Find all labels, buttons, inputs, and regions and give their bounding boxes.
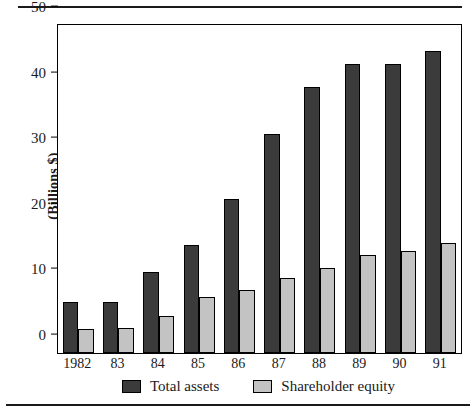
bar-total-assets (385, 64, 401, 353)
bar-shareholder-equity (360, 255, 376, 353)
bar-shareholder-equity (401, 251, 417, 353)
bar-group (385, 25, 416, 353)
bar-shareholder-equity (239, 290, 255, 353)
legend-swatch-icon (253, 380, 272, 393)
bar-shareholder-equity (78, 329, 94, 353)
bar-shareholder-equity (199, 297, 215, 353)
y-tick-mark (51, 202, 58, 203)
y-tick-10: 10 (31, 259, 58, 278)
y-tick-mark (51, 268, 58, 269)
bar-group (224, 25, 255, 353)
bar-shareholder-equity (441, 243, 457, 353)
bar-group (63, 25, 94, 353)
y-tick-label: 20 (31, 195, 51, 212)
bar-total-assets (63, 302, 79, 353)
bar-shareholder-equity (320, 268, 336, 353)
x-tick-label-90: 90 (393, 356, 407, 372)
x-tick-label-87: 87 (272, 356, 286, 372)
y-tick-mark (51, 137, 58, 138)
bar-total-assets (224, 199, 240, 353)
y-tick-mark (51, 334, 58, 335)
x-tick-label-83: 83 (110, 356, 124, 372)
bar-group (304, 25, 335, 353)
x-tick-label-91: 91 (433, 356, 447, 372)
x-tick-label-89: 89 (352, 356, 366, 372)
x-tick-label-1982: 1982 (63, 356, 91, 372)
bar-total-assets (184, 245, 200, 353)
x-tick-label-86: 86 (231, 356, 245, 372)
bottom-rule (6, 404, 470, 406)
bars-layer (58, 25, 461, 353)
y-tick-30: 30 (31, 128, 58, 147)
bar-shareholder-equity (118, 328, 134, 353)
legend-item-total-assets: Total assets (122, 378, 219, 395)
y-tick-label: 40 (31, 64, 51, 81)
legend-label: Total assets (150, 378, 219, 395)
y-tick-label: 50 (31, 0, 51, 16)
bar-group (103, 25, 134, 353)
bar-group (143, 25, 174, 353)
chart-legend: Total assetsShareholder equity (57, 376, 460, 396)
y-tick-20: 20 (31, 194, 58, 213)
bar-group (184, 25, 215, 353)
bar-total-assets (425, 51, 441, 353)
x-tick-label-88: 88 (312, 356, 326, 372)
top-rule (18, 6, 462, 8)
plot-area: 01020304050 (57, 24, 462, 354)
bar-shareholder-equity (159, 316, 175, 353)
bar-total-assets (103, 302, 119, 353)
y-tick-40: 40 (31, 62, 58, 81)
bar-group (264, 25, 295, 353)
bar-total-assets (345, 64, 361, 353)
legend-label: Shareholder equity (281, 378, 395, 395)
bar-total-assets (264, 134, 280, 353)
bar-group (345, 25, 376, 353)
bar-total-assets (143, 272, 159, 353)
y-tick-50: 50 (31, 0, 58, 16)
bar-shareholder-equity (280, 278, 296, 353)
x-tick-label-84: 84 (151, 356, 165, 372)
y-tick-0: 0 (39, 325, 59, 344)
chart-figure: (Billions $) 01020304050 198283848586878… (0, 0, 474, 412)
y-tick-mark (51, 6, 58, 7)
x-tick-label-85: 85 (191, 356, 205, 372)
y-tick-label: 10 (31, 261, 51, 278)
bar-total-assets (304, 87, 320, 353)
x-axis-ticks: 1982838485868788899091 (57, 356, 460, 374)
legend-item-shareholder-equity: Shareholder equity (253, 378, 395, 395)
bar-group (425, 25, 456, 353)
legend-swatch-icon (122, 380, 141, 393)
y-tick-mark (51, 71, 58, 72)
y-tick-label: 0 (39, 327, 52, 344)
y-tick-label: 30 (31, 130, 51, 147)
